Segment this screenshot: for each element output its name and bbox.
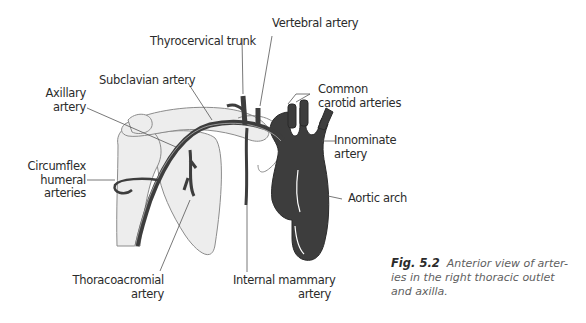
label-innominate-artery: Innominate artery xyxy=(334,134,396,161)
label-aortic-arch: Aortic arch xyxy=(348,192,407,206)
label-circumflex-humeral-arteries: Circumflex humeral arteries xyxy=(20,160,86,201)
label-common-carotid-arteries: Common carotid arteries xyxy=(318,83,401,110)
label-axillary-artery: Axillary artery xyxy=(40,87,86,114)
label-mammary-line1: Internal mammary xyxy=(233,274,331,288)
label-vertebral-artery: Vertebral artery xyxy=(272,17,358,31)
caption-line-2: ies in the right thoracic outlet xyxy=(391,271,586,285)
label-internal-mammary-artery: Internal mammary artery xyxy=(233,274,331,301)
label-axillary-line2: artery xyxy=(40,101,86,115)
aortic-arch-shape xyxy=(270,108,329,260)
label-carotid-line1: Common xyxy=(318,83,401,97)
internal-mammary-artery xyxy=(246,128,247,205)
label-subclavian-artery: Subclavian artery xyxy=(99,74,195,88)
label-thoracoacromial-line2: artery xyxy=(60,288,164,302)
label-thoracoacromial-line1: Thoracoacromial xyxy=(60,274,164,288)
label-carotid-line2: carotid arteries xyxy=(318,97,401,111)
label-circumflex-line3: arteries xyxy=(20,187,86,201)
label-mammary-line2: artery xyxy=(233,288,331,302)
label-circumflex-line2: humeral xyxy=(20,174,86,188)
label-thoracoacromial-artery: Thoracoacromial artery xyxy=(60,274,164,301)
aorta xyxy=(270,100,333,260)
figure-caption: Fig. 5.2 Anterior view of arter- ies in … xyxy=(391,256,586,299)
label-axillary-line1: Axillary xyxy=(40,87,86,101)
label-innominate-line1: Innominate xyxy=(334,134,396,148)
acromion xyxy=(128,114,152,133)
label-thyrocervical-trunk: Thyrocervical trunk xyxy=(150,35,256,49)
label-circumflex-line1: Circumflex xyxy=(20,160,86,174)
caption-line-3: and axilla. xyxy=(391,285,586,299)
thyrocervical-trunk xyxy=(243,96,245,125)
label-innominate-line2: artery xyxy=(334,148,396,162)
figure-number: Fig. 5.2 xyxy=(391,256,440,270)
caption-line-1: Anterior view of arter- xyxy=(447,257,568,270)
